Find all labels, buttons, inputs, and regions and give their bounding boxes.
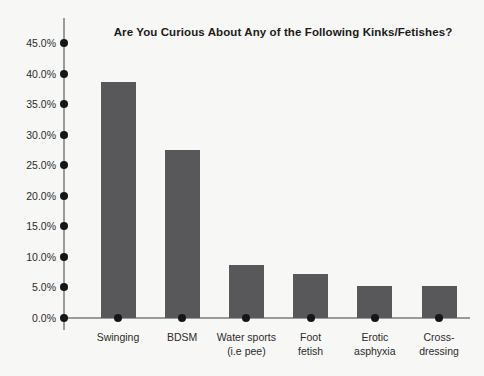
y-axis-tick-marker [60, 70, 68, 78]
y-axis-tick-marker [60, 222, 68, 230]
y-axis-tick-marker [60, 161, 68, 169]
y-axis-tick-label: 25.0% [0, 159, 56, 171]
bar[interactable] [229, 265, 264, 318]
x-axis-category-marker [307, 314, 315, 322]
y-axis-tick-marker [60, 131, 68, 139]
y-axis-tick-label: 30.0% [0, 129, 56, 141]
x-axis-tick-label-line: dressing [396, 345, 482, 359]
y-axis-tick-marker [60, 39, 68, 47]
x-axis-category-marker [114, 314, 122, 322]
y-axis-tick-label: 10.0% [0, 251, 56, 263]
y-axis-tick-label: 5.0% [0, 281, 56, 293]
y-axis-tick-marker [60, 283, 68, 291]
bar[interactable] [165, 150, 200, 318]
bar[interactable] [293, 274, 328, 318]
x-axis-category-marker [178, 314, 186, 322]
y-axis-tick-label: 40.0% [0, 68, 56, 80]
bar-chart: Are You Curious About Any of the Followi… [0, 0, 484, 376]
x-axis-category-marker [371, 314, 379, 322]
plot-area: 0.0%5.0%10.0%15.0%20.0%25.0%30.0%35.0%40… [0, 0, 484, 376]
y-axis-tick-marker [60, 253, 68, 261]
y-axis-tick-marker [60, 100, 68, 108]
y-axis-tick-marker [60, 192, 68, 200]
y-axis-tick-label: 35.0% [0, 98, 56, 110]
y-axis-tick-label: 45.0% [0, 37, 56, 49]
y-axis-tick-label: 20.0% [0, 190, 56, 202]
y-axis-tick-label: 0.0% [0, 312, 56, 324]
bar[interactable] [101, 82, 136, 318]
x-axis-category-marker [242, 314, 250, 322]
x-axis-tick-label-line: Cross- [396, 331, 482, 345]
y-axis-tick-marker [60, 314, 68, 322]
y-axis-tick-label: 15.0% [0, 220, 56, 232]
x-axis-tick-label: Cross-dressing [396, 331, 482, 358]
x-axis-category-marker [435, 314, 443, 322]
